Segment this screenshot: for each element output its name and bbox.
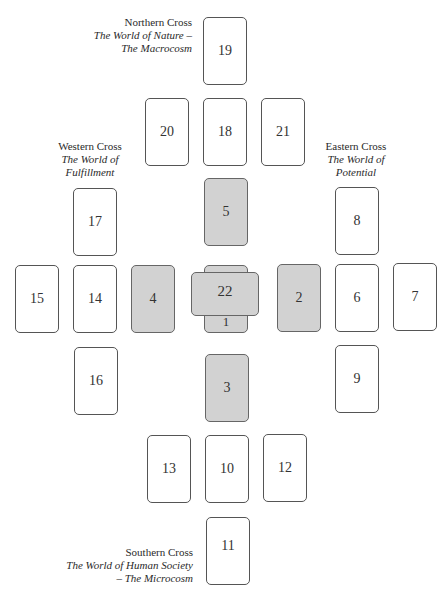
card-7: 7: [393, 263, 437, 331]
card-19: 19: [203, 17, 247, 85]
card-4: 4: [131, 265, 175, 333]
southern-cross-label: Southern Cross The World of Human Societ…: [40, 546, 193, 585]
northern-cross-subtitle-1: The World of Nature –: [60, 29, 192, 42]
card-14: 14: [73, 265, 117, 333]
northern-cross-subtitle-2: The Macrocosm: [60, 42, 192, 55]
card-12: 12: [263, 434, 307, 502]
card-9: 9: [335, 345, 379, 413]
card-17: 17: [73, 188, 117, 256]
eastern-cross-label: Eastern Cross The World of Potential: [306, 140, 406, 179]
western-cross-title: Western Cross: [40, 140, 140, 153]
eastern-cross-subtitle-2: Potential: [306, 166, 406, 179]
card-8: 8: [335, 187, 379, 255]
western-cross-subtitle-2: Fulfillment: [40, 166, 140, 179]
southern-cross-title: Southern Cross: [40, 546, 193, 559]
card-22: 22: [191, 272, 259, 316]
card-11: 11: [206, 517, 250, 585]
card-13: 13: [147, 435, 191, 503]
eastern-cross-title: Eastern Cross: [306, 140, 406, 153]
card-10: 10: [205, 435, 249, 503]
card-2: 2: [277, 264, 321, 332]
northern-cross-label: Northern Cross The World of Nature – The…: [60, 16, 192, 55]
eastern-cross-subtitle-1: The World of: [306, 153, 406, 166]
northern-cross-title: Northern Cross: [60, 16, 192, 29]
card-5: 5: [204, 178, 248, 246]
card-16: 16: [74, 347, 118, 415]
southern-cross-subtitle-2: – The Microcosm: [40, 572, 193, 585]
card-3: 3: [205, 354, 249, 422]
card-15: 15: [15, 265, 59, 333]
card-21: 21: [261, 98, 305, 166]
western-cross-label: Western Cross The World of Fulfillment: [40, 140, 140, 179]
card-18: 18: [203, 98, 247, 166]
card-6: 6: [335, 264, 379, 332]
card-20: 20: [145, 98, 189, 166]
southern-cross-subtitle-1: The World of Human Society: [40, 559, 193, 572]
western-cross-subtitle-1: The World of: [40, 153, 140, 166]
